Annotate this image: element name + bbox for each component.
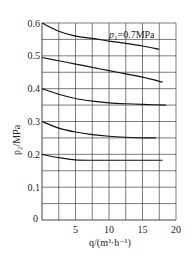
x-tick-label: 0	[33, 213, 38, 224]
x-tick-label: 20	[171, 224, 181, 235]
y-axis-label: p₂/MPa	[11, 124, 22, 155]
y-tick-label: 0.2	[28, 149, 41, 160]
curve-series-3	[42, 89, 166, 105]
y-tick-label: 0.5	[28, 50, 41, 61]
curve-series-2	[42, 57, 163, 82]
y-tick-label: 0.1	[28, 182, 41, 193]
annotation-p1: p1=0.7MPa	[108, 29, 155, 42]
x-tick-label: 5	[73, 224, 78, 235]
grid-lines	[42, 23, 176, 220]
chart-svg: 0.10.20.30.40.50.6 05101520 p1=0.7MPa p₂…	[0, 0, 192, 258]
pressure-flow-chart: 0.10.20.30.40.50.6 05101520 p1=0.7MPa p₂…	[0, 0, 192, 258]
x-tick-labels: 05101520	[33, 213, 181, 235]
x-tick-label: 10	[104, 224, 114, 235]
curve-series-5	[42, 154, 163, 160]
data-curves	[42, 23, 166, 160]
y-tick-label: 0.3	[28, 116, 41, 127]
y-tick-labels: 0.10.20.30.40.50.6	[28, 18, 41, 193]
x-tick-label: 15	[138, 224, 148, 235]
y-tick-label: 0.4	[28, 83, 41, 94]
x-axis-label: q/(m³·h⁻¹)	[89, 237, 131, 249]
y-tick-label: 0.6	[28, 18, 41, 29]
